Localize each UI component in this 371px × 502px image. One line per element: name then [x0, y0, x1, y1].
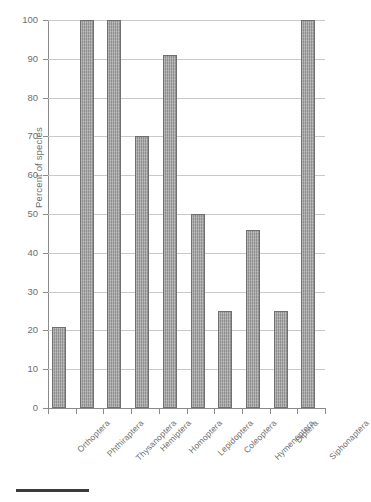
- x-axis-tick: [242, 409, 243, 414]
- bar: [52, 327, 66, 408]
- y-axis-tick-label: 40: [0, 248, 38, 258]
- y-axis-tick-label: 50: [0, 209, 38, 219]
- y-axis-tick-label: 80: [0, 93, 38, 103]
- x-axis-tick: [270, 409, 271, 414]
- y-axis-tick-label: 30: [0, 287, 38, 297]
- bar: [163, 55, 177, 408]
- bar: [80, 20, 94, 408]
- y-axis-tick-label: 0: [0, 403, 38, 413]
- x-axis-tick: [187, 409, 188, 414]
- y-axis-tick-label: 60: [0, 170, 38, 180]
- bottom-rule: [16, 489, 89, 492]
- x-axis-tick: [76, 409, 77, 414]
- x-axis-tick: [159, 409, 160, 414]
- x-axis-tick: [214, 409, 215, 414]
- x-axis-tick-label: Siphonaptera: [327, 418, 371, 462]
- bar: [246, 230, 260, 408]
- x-axis-tick: [297, 409, 298, 414]
- y-axis-tick-label: 70: [0, 131, 38, 141]
- plot-area: [48, 20, 325, 408]
- y-axis-tick-label: 90: [0, 54, 38, 64]
- bar: [274, 311, 288, 408]
- y-axis-tick-label: 10: [0, 364, 38, 374]
- bar: [191, 214, 205, 408]
- bar: [218, 311, 232, 408]
- x-axis-tick: [131, 409, 132, 414]
- x-axis-tick: [48, 409, 49, 414]
- bar: [301, 20, 315, 408]
- bar: [135, 136, 149, 408]
- x-axis-tick: [325, 409, 326, 414]
- y-axis-tick-label: 20: [0, 325, 38, 335]
- y-axis-tick-label: 100: [0, 15, 38, 25]
- x-axis-tick: [103, 409, 104, 414]
- bar: [107, 20, 121, 408]
